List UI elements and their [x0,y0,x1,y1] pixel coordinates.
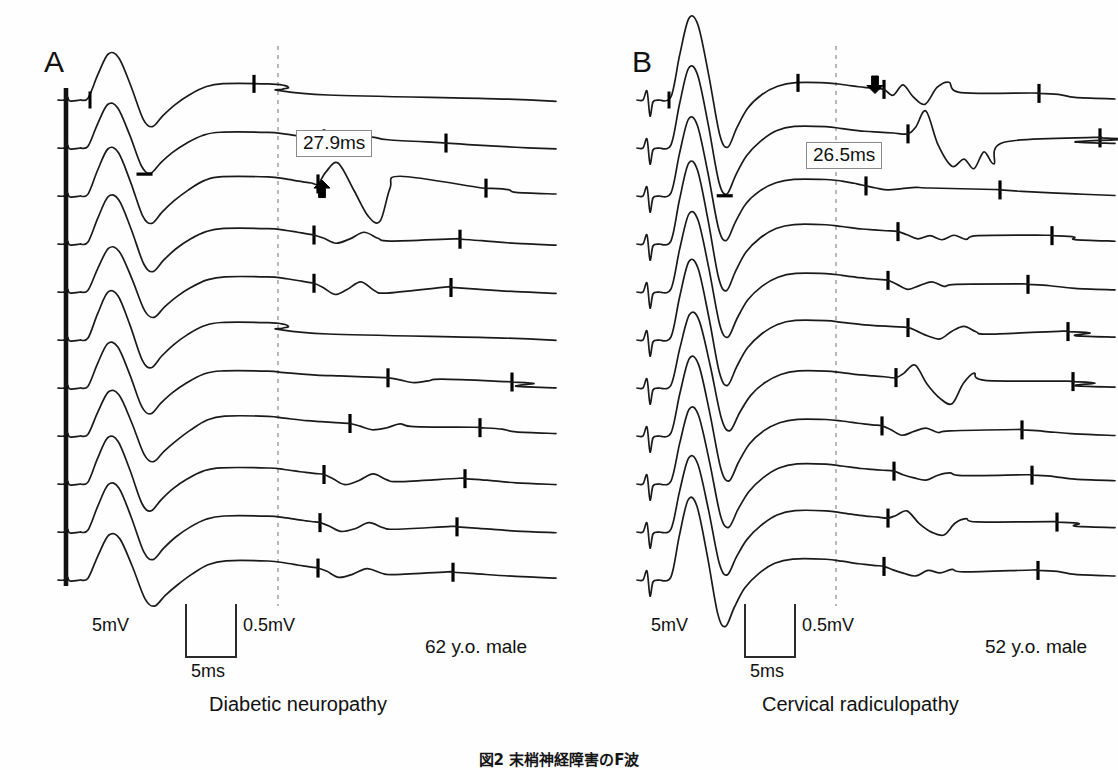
diagnosis-b: Cervical radiculopathy [762,693,959,715]
scale-bar-b-amplitude-left: 5mV [651,616,688,634]
scale-bar-b-shape [744,604,796,658]
scale-bar-a-amplitude-right: 0.5mV [243,616,295,634]
figure-caption: 図2 末梢神経障害のF波 [0,752,1118,770]
diagnosis-a: Diabetic neuropathy [209,693,387,715]
figure-root: A 27.9ms 5mV 0.5mV 5ms 62 y.o. male Diab… [0,0,1118,770]
patient-age-b: 52 y.o. male [985,637,1087,657]
scale-bar-b-amplitude-right: 0.5mV [802,616,854,634]
latency-label-b: 26.5ms [806,142,882,169]
latency-label-a: 27.9ms [296,130,372,157]
patient-age-a: 62 y.o. male [425,637,527,657]
panel-a: A 27.9ms 5mV 0.5mV 5ms 62 y.o. male Diab… [0,0,559,770]
scale-bar-a-shape [185,604,237,658]
scale-bar-a-amplitude-left: 5mV [92,616,129,634]
scale-bar-a-time: 5ms [191,662,225,680]
scale-bar-b-time: 5ms [750,662,784,680]
